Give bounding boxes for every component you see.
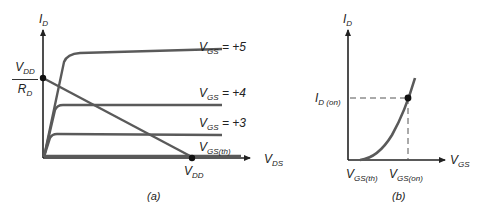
vdd-over-rd-label: VDD RD	[12, 61, 38, 98]
caption-a: (a)	[147, 190, 160, 202]
load-line	[43, 78, 192, 157]
fraction-bar	[12, 79, 38, 80]
a-x-axis-label: VDS	[264, 153, 283, 168]
curve-vgs-3	[44, 134, 222, 157]
point-id-on	[405, 95, 412, 102]
caption-b: (b)	[392, 190, 405, 202]
panel-b	[348, 30, 445, 160]
label-vgs-th-b: VGS(th)	[346, 168, 378, 183]
b-y-axis-label: ID	[343, 13, 352, 28]
label-vgs-th-a: VGS(th)	[199, 141, 231, 156]
transconductance-curve	[360, 78, 415, 160]
point-vdd	[189, 155, 195, 161]
b-x-axis-label: VGS	[450, 154, 470, 169]
label-vgs-3: VGS = +3	[199, 117, 246, 132]
vdd-numerator: VDD	[12, 61, 38, 76]
a-y-axis-label: ID	[39, 13, 48, 28]
label-vgs-on: VGS(on)	[389, 168, 423, 183]
rd-denominator: RD	[12, 83, 38, 98]
curve-vgs-4	[44, 105, 222, 157]
label-vgs-5: VGS = +5	[199, 41, 246, 56]
point-vdd-rd	[40, 75, 46, 81]
label-vgs-4: VGS = +4	[199, 87, 246, 102]
curve-vgs-5	[44, 49, 222, 157]
label-vdd-x: VDD	[184, 165, 204, 180]
label-id-on: ID (on)	[315, 92, 341, 107]
